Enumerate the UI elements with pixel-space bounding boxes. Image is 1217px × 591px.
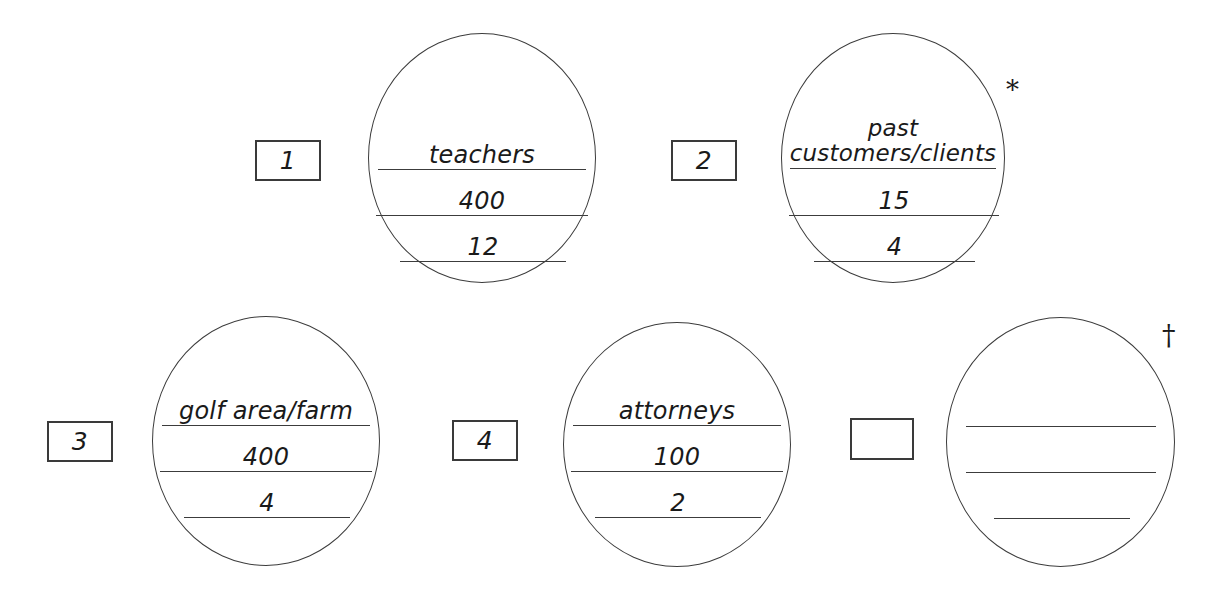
number-box-3[interactable]: 3 (47, 421, 113, 462)
circle-5-line-middle[interactable] (966, 429, 1156, 473)
circle-2-line-middle[interactable]: 15 (789, 171, 999, 216)
circle-2-line-top[interactable]: past customers/clients (790, 85, 996, 169)
circle-4-line-bottom-text: 2 (595, 491, 761, 516)
circle-4-line-middle-text: 100 (571, 445, 783, 470)
circle-2-line-middle-text: 15 (789, 189, 999, 214)
circle-1-line-top-text: teachers (378, 143, 586, 168)
circle-4-line-top[interactable]: attorneys (573, 382, 781, 426)
circle-4[interactable]: attorneys 100 2 (563, 322, 791, 567)
number-box-1-label: 1 (280, 148, 296, 173)
circle-2-line-bottom-text: 4 (814, 235, 975, 260)
circle-1-slots: teachers 400 12 (368, 33, 596, 283)
circle-4-line-bottom[interactable]: 2 (595, 474, 761, 518)
worksheet-canvas: 1 teachers 400 12 2 past customers/clien… (0, 0, 1217, 591)
circle-1-line-middle[interactable]: 400 (376, 172, 588, 216)
number-box-4-label: 4 (477, 428, 493, 453)
circle-5-line-bottom[interactable] (994, 475, 1130, 519)
circle-1-line-top[interactable]: teachers (378, 128, 586, 170)
number-box-3-label: 3 (72, 429, 88, 454)
dagger-marker: † (1162, 322, 1176, 349)
number-box-5[interactable] (850, 418, 914, 460)
circle-2-line-top-text: past customers/clients (776, 116, 1010, 168)
circle-5-slots (946, 317, 1175, 567)
circle-1-line-bottom-text: 12 (400, 235, 566, 260)
circle-2-slots: past customers/clients 15 4 (781, 33, 1005, 283)
circle-2[interactable]: past customers/clients 15 4 (781, 33, 1005, 283)
asterisk-marker: * (1006, 77, 1019, 103)
circle-3[interactable]: golf area/farm 400 4 (152, 316, 380, 566)
circle-3-line-top[interactable]: golf area/farm (162, 382, 370, 426)
number-box-2[interactable]: 2 (671, 140, 737, 181)
circle-4-slots: attorneys 100 2 (563, 322, 791, 567)
circle-1-line-middle-text: 400 (376, 189, 588, 214)
number-box-2-label: 2 (696, 148, 712, 173)
circle-3-line-top-text: golf area/farm (162, 399, 370, 424)
circle-2-line-bottom[interactable]: 4 (814, 218, 975, 262)
circle-3-line-bottom-text: 4 (184, 491, 350, 516)
number-box-4[interactable]: 4 (452, 420, 518, 461)
number-box-1[interactable]: 1 (255, 140, 321, 181)
circle-4-line-middle[interactable]: 100 (571, 428, 783, 472)
circle-3-line-middle-text: 400 (160, 445, 372, 470)
circle-3-line-bottom[interactable]: 4 (184, 474, 350, 518)
circle-5[interactable] (946, 317, 1175, 567)
circle-3-slots: golf area/farm 400 4 (152, 316, 380, 566)
circle-4-line-top-text: attorneys (573, 399, 781, 424)
circle-3-line-middle[interactable]: 400 (160, 428, 372, 472)
circle-5-line-top[interactable] (966, 383, 1156, 427)
circle-1[interactable]: teachers 400 12 (368, 33, 596, 283)
circle-1-line-bottom[interactable]: 12 (400, 218, 566, 262)
